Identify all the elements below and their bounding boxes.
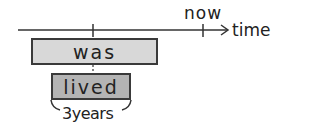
event-box-lived: lived — [51, 73, 131, 100]
now-label: now — [184, 3, 222, 23]
event-label: lived — [63, 76, 119, 98]
time-axis-label: time — [232, 20, 270, 40]
event-label: was — [73, 41, 116, 63]
event-box-was: was — [31, 38, 158, 65]
duration-label: 3years — [62, 104, 113, 123]
